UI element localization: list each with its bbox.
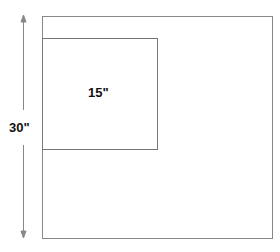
inner-dimension-label: 15" — [88, 85, 109, 100]
arrow-down-icon — [21, 231, 26, 238]
outer-dimension-label: 30" — [9, 120, 30, 135]
diagram-canvas — [0, 0, 280, 252]
arrow-up-icon — [21, 15, 26, 22]
